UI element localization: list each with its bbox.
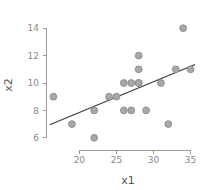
data-point (106, 93, 113, 100)
data-points (50, 25, 194, 141)
data-point (158, 80, 165, 87)
data-point (180, 25, 187, 32)
data-point (187, 66, 194, 73)
data-point (165, 121, 172, 128)
scatter-plot-figure: 68101214 20253035 x1 x2 (0, 0, 215, 190)
x-axis: 20253035 (74, 150, 197, 165)
x-tick-label: 25 (111, 155, 122, 165)
data-point (120, 107, 127, 114)
data-point (128, 80, 135, 87)
y-tick-label: 10 (28, 78, 40, 88)
data-point (91, 107, 98, 114)
y-tick-label: 12 (28, 51, 39, 61)
data-point (143, 107, 150, 114)
y-tick-label: 14 (28, 23, 40, 33)
data-point (135, 66, 142, 73)
data-point (135, 52, 142, 59)
data-point (69, 121, 76, 128)
y-axis-title: x2 (2, 78, 15, 92)
x-tick-label: 20 (74, 155, 86, 165)
y-tick-label: 8 (33, 106, 39, 116)
data-point (91, 134, 98, 141)
data-point (135, 80, 142, 87)
data-point (50, 93, 57, 100)
data-point (128, 107, 135, 114)
x-tick-label: 35 (185, 155, 196, 165)
data-point (120, 80, 127, 87)
data-point (113, 93, 120, 100)
plot-canvas: 68101214 20253035 x1 x2 (0, 0, 215, 190)
y-tick-label: 6 (33, 133, 39, 143)
regression-line-segment (50, 65, 195, 125)
regression-line (50, 65, 195, 125)
x-tick-label: 30 (148, 155, 160, 165)
y-axis: 68101214 (28, 23, 46, 143)
data-point (172, 66, 179, 73)
x-axis-title: x1 (121, 174, 135, 187)
